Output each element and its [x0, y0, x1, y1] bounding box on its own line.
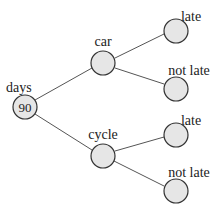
cycle-notlate-label: not late	[168, 165, 210, 180]
cycle-late-circle	[164, 123, 188, 147]
node-cycle-notlate: not late	[164, 165, 210, 203]
car-notlate-label: not late	[168, 63, 210, 78]
car-late-circle	[164, 19, 188, 43]
root-value: 90	[19, 100, 32, 115]
edge-root-car	[35, 68, 92, 100]
node-cycle: cycle	[88, 127, 118, 168]
cycle-circle	[91, 144, 115, 168]
cycle-notlate-circle	[164, 179, 188, 203]
root-label: days	[6, 80, 32, 95]
edge-root-cycle	[35, 114, 92, 150]
tree-diagram: days 90 car cycle late not late late not…	[0, 0, 222, 215]
car-circle	[91, 51, 115, 75]
node-cycle-late: late	[164, 113, 201, 147]
edge-car-late	[115, 34, 164, 58]
edge-car-notlate	[115, 68, 164, 84]
car-notlate-circle	[164, 77, 188, 101]
cycle-label: cycle	[88, 127, 118, 142]
root-node: days 90	[6, 80, 37, 119]
node-car: car	[91, 34, 115, 75]
edge-cycle-notlate	[114, 161, 164, 186]
node-car-late: late	[164, 9, 201, 43]
node-car-notlate: not late	[164, 63, 210, 101]
edge-cycle-late	[115, 137, 164, 151]
car-label: car	[94, 34, 111, 49]
